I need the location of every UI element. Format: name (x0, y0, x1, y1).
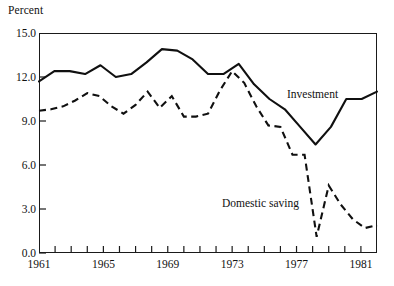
x-axis-tick-label: 1969 (156, 258, 179, 270)
x-axis-tick-label: 1981 (349, 258, 372, 270)
x-axis-tick-label: 1961 (28, 258, 51, 270)
x-axis-tick-label: 1973 (221, 258, 244, 270)
x-axis-tick-label: 1977 (285, 258, 308, 270)
chart-container: Percent 0.03.06.09.012.015.0 Investment … (0, 0, 394, 286)
x-axis-tick-label: 1965 (92, 258, 115, 270)
series-annotation-domestic-saving: Domestic saving (222, 197, 299, 209)
series-annotation-investment: Investment (287, 88, 338, 100)
x-axis-ticks (55, 246, 361, 253)
chart-svg (0, 0, 394, 286)
y-axis-ticks (39, 77, 46, 253)
